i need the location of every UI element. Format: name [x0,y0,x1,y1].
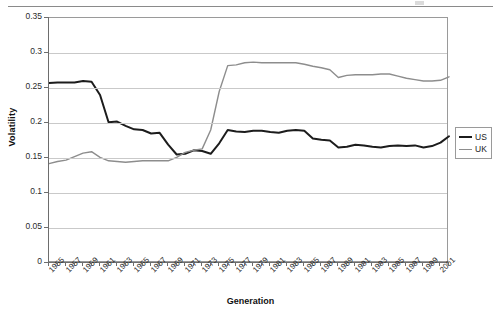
y-tick-label: 0.25 [0,82,42,91]
gridline [49,228,447,229]
legend-item-us[interactable]: US [459,131,487,143]
x-tick-mark [312,262,313,266]
x-tick-mark [193,262,194,266]
x-tick-mark [414,262,415,266]
gridline [49,123,447,124]
plot-area [48,17,448,262]
gridline [49,53,447,54]
legend-label-us: US [475,132,487,142]
x-tick-mark [261,262,262,266]
gridline [49,158,447,159]
y-tick-mark [44,157,48,158]
x-tick-mark [176,262,177,266]
x-tick-mark [125,262,126,266]
x-tick-mark [329,262,330,266]
y-tick-label: 0 [0,257,42,266]
x-tick-mark [363,262,364,266]
legend-swatch-us-icon [459,136,472,138]
x-tick-mark [431,262,432,266]
x-tick-mark [397,262,398,266]
y-tick-mark [44,227,48,228]
y-tick-mark [44,122,48,123]
y-axis-title: Volatility [7,97,17,157]
x-tick-mark [448,262,449,266]
y-tick-label: 0.05 [0,222,42,231]
x-tick-mark [346,262,347,266]
x-tick-mark [108,262,109,266]
x-tick-mark [142,262,143,266]
chart-legend: US UK [455,127,492,159]
legend-label-uk: UK [475,144,487,154]
series-line-uk [49,62,449,164]
gridline [49,193,447,194]
page-header-artifact [415,1,424,5]
series-lines [49,18,449,263]
y-tick-label: 0.3 [0,47,42,56]
x-axis-title: Generation [0,296,501,306]
x-tick-mark [210,262,211,266]
x-tick-mark [74,262,75,266]
page-header-rule [8,6,493,7]
legend-item-uk[interactable]: UK [459,143,487,155]
y-tick-mark [44,87,48,88]
y-tick-mark [44,192,48,193]
chart-page: 00.050.10.150.20.250.30.35 1955195719591… [0,0,501,311]
legend-swatch-uk-icon [459,149,472,150]
x-tick-mark [91,262,92,266]
gridline [49,88,447,89]
y-tick-label: 0.1 [0,187,42,196]
x-tick-mark [244,262,245,266]
x-tick-mark [57,262,58,266]
y-axis-line [48,17,49,262]
y-tick-mark [44,17,48,18]
x-tick-mark [159,262,160,266]
y-tick-label: 0.35 [0,12,42,21]
x-tick-mark [295,262,296,266]
x-tick-mark [278,262,279,266]
y-tick-mark [44,52,48,53]
volatility-line-chart: 00.050.10.150.20.250.30.35 1955195719591… [0,10,501,311]
x-tick-mark [380,262,381,266]
series-line-us [49,81,449,155]
x-tick-mark [227,262,228,266]
